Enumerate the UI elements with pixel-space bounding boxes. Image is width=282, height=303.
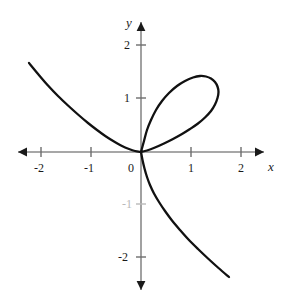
y-axis-arrow-down-icon	[137, 281, 146, 290]
y-axis-label: y	[126, 16, 132, 29]
plot-canvas	[0, 0, 282, 303]
y-axis-arrow-up-icon	[137, 22, 146, 31]
curve-upper-left-branch	[29, 63, 141, 152]
y-tick-label-1: 1	[124, 92, 130, 104]
x-tick-label-2: 2	[238, 162, 244, 174]
x-axis-arrow-right-icon	[255, 148, 264, 157]
folium-of-descartes-figure: -2 -1 0 1 2 2 1 -1 -2 x y	[0, 0, 282, 303]
x-tick-label--2: -2	[34, 162, 44, 174]
y-tick-label--1: -1	[122, 198, 132, 210]
x-axis-label: x	[268, 160, 274, 173]
y-tick-label--2: -2	[118, 251, 128, 263]
curve-lower-right-branch	[141, 152, 229, 277]
x-axis-arrow-left-icon	[18, 148, 27, 157]
x-tick-label--1: -1	[84, 162, 94, 174]
y-tick-label-2: 2	[124, 39, 130, 51]
x-tick-label-1: 1	[188, 162, 194, 174]
origin-label: 0	[128, 162, 134, 174]
curve-loop-branch	[141, 76, 219, 152]
